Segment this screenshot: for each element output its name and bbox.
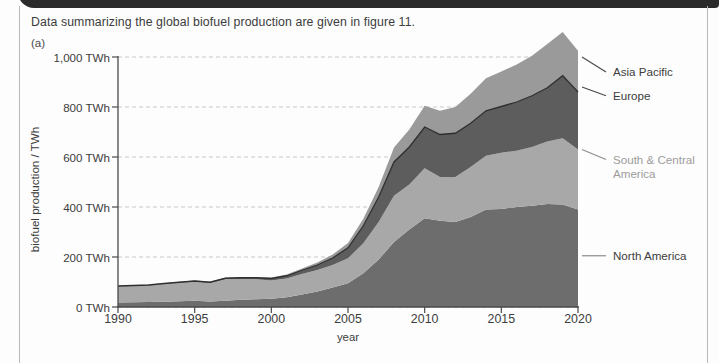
y-axis-title: biofuel production / TWh xyxy=(28,90,41,290)
x-axis-tick-label: 2010 xyxy=(411,312,439,326)
legend-label-north-america: North America xyxy=(613,249,686,263)
y-axis-tick-label-wrap: 200 TWh xyxy=(36,257,110,270)
y-axis-tick-label: 400 TWh xyxy=(36,201,110,214)
x-axis-tick-label: 1990 xyxy=(104,312,132,326)
x-axis-tick-label: 2020 xyxy=(564,312,592,326)
x-axis-title: year xyxy=(337,331,359,343)
y-axis-tick-label: 1,000 TWh xyxy=(36,51,110,64)
legend-label-asia-pacific: Asia Pacific xyxy=(613,65,673,79)
x-axis-tick-label: 1995 xyxy=(181,312,209,326)
page-background: Data summarizing the global biofuel prod… xyxy=(0,0,719,363)
y-axis-tick-label-wrap: 1,000 TWh xyxy=(36,57,110,70)
y-axis-tick-label-wrap: 0 TWh xyxy=(36,307,110,320)
x-axis-tick-label: 2015 xyxy=(488,312,516,326)
x-axis-tick-label: 2005 xyxy=(334,312,362,326)
y-axis-tick-label: 600 TWh xyxy=(36,151,110,164)
y-axis-tick-label: 800 TWh xyxy=(36,101,110,114)
y-axis-tick-label-wrap: 800 TWh xyxy=(36,107,110,120)
y-axis-tick-label-wrap: 400 TWh xyxy=(36,207,110,220)
y-axis-tick-label: 200 TWh xyxy=(36,251,110,264)
legend-label-south-central-america: South & Central America xyxy=(613,153,695,181)
legend-label-europe: Europe xyxy=(613,89,650,103)
y-axis-tick-label: 0 TWh xyxy=(36,301,110,314)
biofuel-production-stacked-area-chart: 0 TWh200 TWh400 TWh600 TWh800 TWh1,000 T… xyxy=(0,0,719,363)
legend-leader-2 xyxy=(582,150,606,160)
y-axis-tick-label-wrap: 600 TWh xyxy=(36,157,110,170)
legend-leader-0 xyxy=(582,57,606,72)
x-axis-tick-label: 2000 xyxy=(258,312,286,326)
legend-leader-1 xyxy=(582,87,606,96)
